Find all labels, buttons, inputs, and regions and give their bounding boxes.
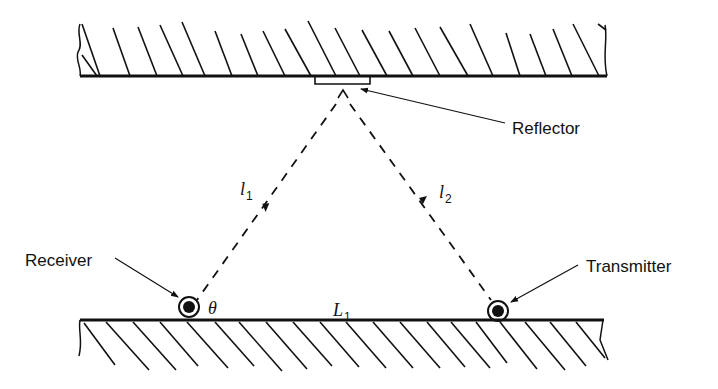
reflection-point-icon (338, 90, 348, 98)
signal-path-l1 (197, 104, 336, 300)
angle-theta-label: θ (208, 298, 217, 318)
reflector-label: Reflector (512, 119, 580, 138)
ceiling-wall (77, 21, 607, 76)
svg-text:2: 2 (445, 192, 452, 206)
floor-wall (79, 320, 608, 371)
reflector-callout-arrow (361, 89, 505, 123)
path-l1-label: l 1 (240, 179, 253, 203)
transmitter-icon (488, 301, 508, 321)
reflector (315, 76, 370, 98)
svg-text:l: l (240, 179, 245, 199)
receiver-callout-arrow (115, 258, 178, 297)
svg-text:L: L (332, 300, 343, 320)
signal-path-l2 (350, 104, 491, 300)
svg-text:1: 1 (344, 310, 351, 324)
receiver-icon (179, 297, 199, 317)
svg-text:1: 1 (246, 189, 253, 203)
svg-text:l: l (439, 182, 444, 202)
receiver-label: Receiver (25, 251, 92, 270)
transmitter-callout-arrow (511, 265, 578, 302)
transmitter-label: Transmitter (586, 257, 672, 276)
diagram-canvas: Reflector l 1 l 2 Receiver θ Transmitter… (0, 0, 718, 389)
path-l2-label: l 2 (439, 182, 452, 206)
